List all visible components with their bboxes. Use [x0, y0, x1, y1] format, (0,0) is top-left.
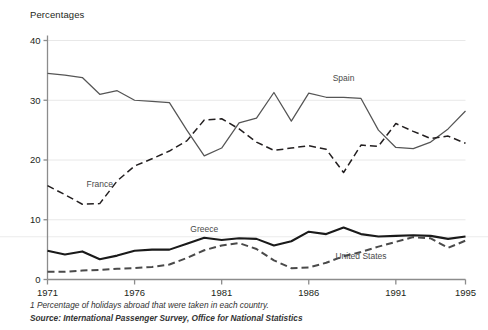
svg-text:1991: 1991 [385, 287, 406, 298]
y-axis-tick-labels: 010203040 [30, 35, 41, 285]
svg-text:1971: 1971 [37, 287, 58, 298]
svg-text:1986: 1986 [298, 287, 319, 298]
svg-text:20: 20 [30, 154, 41, 165]
series-line-france [48, 119, 466, 204]
series-label-greece: Greece [190, 224, 218, 234]
svg-text:1995: 1995 [455, 287, 476, 298]
chart-figure: Percentages 010203040 197119761981198619… [0, 0, 488, 330]
footnote-source: Source: International Passenger Survey, … [30, 313, 303, 323]
series-label-united-states: United States [335, 251, 386, 261]
gridlines [48, 41, 466, 220]
svg-text:40: 40 [30, 35, 41, 46]
series-line-united-states [48, 237, 466, 272]
line-chart-plot: 010203040 197119761981198619911995 Spain… [0, 0, 488, 330]
svg-text:0: 0 [35, 274, 40, 285]
x-axis-tick-labels: 197119761981198619911995 [37, 287, 476, 298]
footnote-note: 1 Percentage of holidays abroad that wer… [30, 300, 269, 310]
svg-text:1976: 1976 [124, 287, 145, 298]
svg-text:10: 10 [30, 214, 41, 225]
series-label-spain: Spain [333, 73, 355, 83]
series-line-greece [48, 228, 466, 260]
x-axis-ticks [48, 280, 466, 285]
series-line-spain [48, 73, 466, 155]
svg-text:30: 30 [30, 95, 41, 106]
series-inline-labels: SpainFranceGreeceUnited States [87, 73, 387, 261]
data-series-lines [48, 73, 466, 271]
series-label-france: France [87, 179, 114, 189]
svg-text:1981: 1981 [211, 287, 232, 298]
axes [48, 36, 466, 280]
